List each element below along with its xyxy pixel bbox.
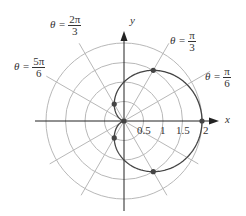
marked-point (112, 135, 117, 140)
marked-point (151, 68, 156, 73)
angle-label-pi-6: θ = π6 (205, 66, 231, 89)
marked-point (112, 102, 117, 107)
tick-label-0.5: 0.5 (137, 124, 151, 136)
x-axis-arrow-icon (209, 118, 219, 125)
grid-radial-line (124, 71, 210, 121)
marked-point (121, 118, 126, 123)
tick-label-2: 2 (203, 124, 209, 136)
grid-radial-line (50, 121, 124, 164)
axes (35, 31, 219, 211)
grid-radial-line (81, 121, 124, 195)
grid-radial-lines (46, 43, 210, 195)
marked-point (199, 118, 204, 123)
angle-label-2pi-3: θ = 2π3 (50, 14, 81, 37)
y-axis-arrow-icon (121, 31, 128, 41)
angle-label-5pi-6: θ = 5π6 (14, 56, 45, 79)
angle-label-pi-3: θ = π3 (170, 30, 196, 53)
tick-label-1.5: 1.5 (176, 124, 190, 136)
x-axis-label: x (225, 113, 230, 125)
tick-label-1: 1 (160, 124, 166, 136)
y-axis-label: y (130, 14, 135, 26)
polar-plot (0, 0, 246, 216)
marked-point (151, 169, 156, 174)
